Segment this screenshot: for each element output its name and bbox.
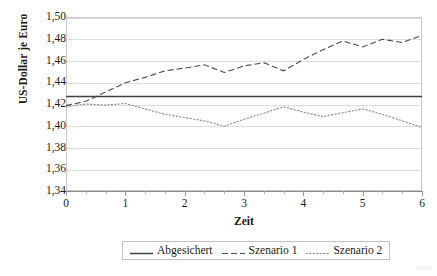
legend-label: Szenario 1 <box>249 244 298 256</box>
x-axis-tick-major <box>244 191 245 196</box>
series-overlay <box>66 17 422 191</box>
y-axis-tick-label: 1,36 <box>24 163 66 174</box>
x-axis-tick-minor <box>224 191 225 194</box>
y-axis-tick-label: 1,48 <box>24 33 66 44</box>
y-axis-tick-label: 1,46 <box>24 55 66 66</box>
y-axis-tick-label: 1,40 <box>24 120 66 131</box>
chart-legend: AbgesichertSzenario 1Szenario 2 <box>122 241 390 260</box>
x-axis-tick-label: 0 <box>56 197 76 209</box>
legend-label: Abgesichert <box>157 244 213 256</box>
x-axis-tick-minor <box>264 191 265 194</box>
legend-item[interactable]: Szenario 1 <box>222 244 298 256</box>
series-line <box>66 103 422 127</box>
x-axis-tick-major <box>303 191 304 196</box>
x-axis-tick-label: 3 <box>234 197 254 209</box>
legend-item[interactable]: Abgesichert <box>130 244 213 256</box>
y-axis-tick-label: 1,34 <box>24 185 66 196</box>
x-axis-tick-minor <box>382 191 383 194</box>
x-axis-tick-label: 1 <box>115 197 135 209</box>
x-axis-tick-minor <box>204 191 205 194</box>
x-axis-tick-minor <box>402 191 403 194</box>
x-axis-tick-label: 5 <box>353 197 373 209</box>
series-line <box>66 35 422 105</box>
x-axis-tick-minor <box>343 191 344 194</box>
legend-item[interactable]: Szenario 2 <box>306 244 382 256</box>
x-axis-tick-label: 2 <box>175 197 195 209</box>
x-axis-tick-major <box>66 191 67 196</box>
legend-key-dashed-icon <box>222 247 245 254</box>
x-axis-tick-minor <box>165 191 166 194</box>
x-axis-tick-minor <box>284 191 285 194</box>
y-axis-tick-label: 1,42 <box>24 98 66 109</box>
x-axis-tick-minor <box>323 191 324 194</box>
x-axis-title: Zeit <box>66 215 422 227</box>
x-axis-tick-major <box>185 191 186 196</box>
legend-key-dotted-icon <box>306 247 329 254</box>
x-axis-tick-minor <box>106 191 107 194</box>
x-axis-tick-major <box>125 191 126 196</box>
y-axis-tick-label: 1,38 <box>24 142 66 153</box>
x-axis-tick-label: 4 <box>293 197 313 209</box>
y-axis-tick-label: 1,44 <box>24 76 66 87</box>
legend-label: Szenario 2 <box>333 244 382 256</box>
y-axis-tick-label: 1,50 <box>24 11 66 22</box>
x-axis-tick-major <box>422 191 423 196</box>
x-axis-tick-label: 6 <box>412 197 432 209</box>
x-axis-tick-minor <box>145 191 146 194</box>
legend-key-solid-icon <box>130 247 153 254</box>
x-axis-tick-major <box>363 191 364 196</box>
chart-figure: US-Dollar je Euro Zeit AbgesichertSzenar… <box>0 0 437 276</box>
x-axis-tick-minor <box>86 191 87 194</box>
scan-artifact <box>416 266 432 270</box>
